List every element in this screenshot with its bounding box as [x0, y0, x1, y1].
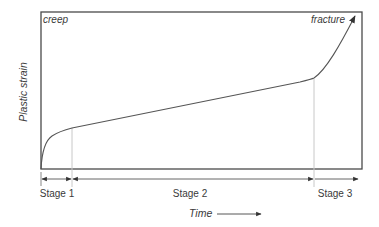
- stage1-label: Stage 1: [40, 188, 75, 199]
- fracture-label: fracture: [311, 14, 345, 25]
- y-axis-label: Plastic strain: [17, 62, 29, 122]
- creep-label: creep: [43, 14, 68, 25]
- creep-curve-diagram: creep fracture Plastic strain Stage 1 St…: [0, 0, 379, 227]
- stage3-label: Stage 3: [318, 188, 353, 199]
- stage2-label: Stage 2: [173, 188, 208, 199]
- x-axis-label: Time: [189, 207, 212, 219]
- creep-curve: [41, 16, 355, 169]
